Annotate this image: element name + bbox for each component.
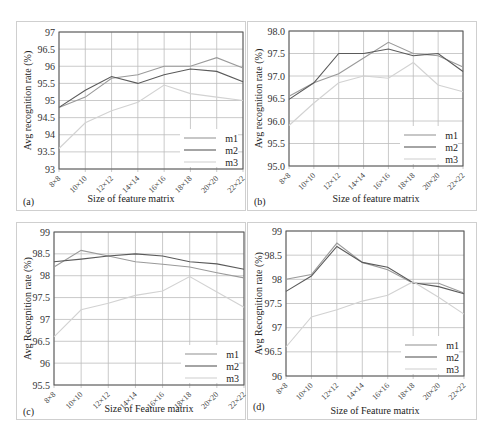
y-tick-label: 98	[40, 270, 50, 281]
y-tick-label: 95	[45, 95, 55, 106]
legend-label-m1: m1	[225, 133, 238, 144]
legend-label-m2: m2	[225, 145, 238, 156]
series-line-m2	[59, 69, 243, 107]
x-tick-label: 12×12	[321, 171, 342, 192]
y-axis-label: Avg Recognition rate (%)	[22, 257, 34, 360]
cropped-caption-strip	[0, 0, 492, 8]
y-tick-label: 99	[40, 227, 50, 238]
x-tick-label: 10×10	[64, 390, 85, 411]
x-tick-label: 20×20	[199, 390, 220, 411]
y-axis-label: Avg Recognition rate (%)	[253, 252, 265, 355]
x-tick-label: 10×10	[296, 171, 317, 192]
y-tick-label: 97	[272, 322, 282, 333]
series-line-m3	[289, 63, 463, 126]
chart-svg: 95.095.596.096.597.097.598.08×810×1012×1…	[248, 22, 478, 212]
series-line-m3	[54, 277, 244, 337]
x-tick-label: 20×20	[421, 381, 442, 402]
y-tick-label: 96.5	[33, 336, 51, 347]
legend-label-m1: m1	[445, 130, 458, 141]
y-tick-label: 99	[272, 226, 282, 237]
y-tick-label: 94	[45, 129, 55, 140]
x-tick-label: 10×10	[68, 174, 89, 195]
y-tick-label: 95.5	[38, 78, 56, 89]
x-tick-label: 8×8	[274, 381, 289, 396]
y-tick-label: 97.5	[268, 48, 286, 59]
y-tick-label: 97	[45, 27, 55, 38]
x-tick-label: 16×16	[371, 171, 392, 192]
y-tick-label: 94.5	[38, 112, 56, 123]
y-tick-label: 96.5	[38, 44, 56, 55]
x-tick-label: 18×18	[173, 174, 194, 195]
x-tick-label: 22×22	[227, 390, 247, 411]
y-tick-label: 96	[40, 358, 50, 369]
series-line-m1	[286, 243, 464, 293]
x-tick-label: 8×8	[42, 390, 57, 405]
y-tick-label: 95.5	[268, 138, 286, 149]
legend-label-m1: m1	[446, 340, 459, 351]
x-axis-label: Size of Feature matrix	[104, 403, 193, 414]
y-tick-label: 97.5	[33, 292, 51, 303]
y-tick-label: 95.5	[33, 380, 51, 391]
x-axis-label: Size of Feature matrix	[330, 405, 419, 416]
y-tick-label: 93	[45, 164, 55, 175]
x-axis-label: Size of feature matrix	[333, 193, 420, 204]
chart-svg: 95.59696.59797.59898.5998×810×1012×1214×…	[17, 223, 247, 421]
x-tick-label: 14×14	[120, 174, 141, 195]
series-line-m2	[286, 247, 464, 294]
y-tick-label: 93.5	[38, 146, 56, 157]
y-tick-label: 98.0	[268, 26, 286, 37]
series-line-m1	[59, 58, 243, 108]
y-tick-label: 97.0	[268, 71, 286, 82]
y-tick-label: 98	[272, 274, 282, 285]
y-tick-label: 98.5	[33, 248, 51, 259]
y-tick-label: 97	[40, 314, 50, 325]
x-tick-label: 22×22	[446, 171, 467, 192]
x-tick-label: 10×10	[294, 381, 315, 402]
series-line-m2	[54, 254, 244, 269]
chart-panel-d: 9696.59797.59898.5998×810×1012×1214×1416…	[247, 222, 477, 420]
y-tick-label: 97.5	[265, 298, 283, 309]
legend-label-m2: m2	[226, 361, 239, 372]
y-tick-label: 98.5	[265, 250, 283, 261]
y-tick-label: 96	[45, 61, 55, 72]
x-tick-label: 12×12	[94, 174, 115, 195]
x-tick-label: 20×20	[199, 174, 220, 195]
chart-panel-b: 95.095.596.096.597.097.598.08×810×1012×1…	[247, 21, 477, 211]
legend-label-m3: m3	[445, 154, 458, 165]
y-tick-label: 96.5	[268, 93, 286, 104]
y-tick-label: 96.5	[265, 346, 283, 357]
panel-label: (a)	[23, 196, 34, 208]
x-tick-label: 22×22	[226, 174, 247, 195]
legend-label-m2: m2	[445, 142, 458, 153]
x-tick-label: 14×14	[345, 381, 366, 402]
series-line-m1	[289, 42, 463, 96]
y-axis-label: Avg recognition rate (%)	[22, 51, 34, 151]
chart-svg: 9393.59494.59595.59696.5978×810×1012×121…	[17, 22, 247, 212]
x-tick-label: 22×22	[447, 381, 468, 402]
legend-label-m3: m3	[226, 373, 239, 384]
series-line-m2	[289, 49, 463, 99]
legend-label-m3: m3	[446, 364, 459, 375]
x-tick-label: 16×16	[370, 381, 391, 402]
x-tick-label: 18×18	[396, 171, 417, 192]
legend-label-m1: m1	[226, 349, 239, 360]
x-axis-label: Size of feature matrix	[88, 193, 175, 204]
x-tick-label: 12×12	[319, 381, 340, 402]
chart-svg: 9696.59797.59898.5998×810×1012×1214×1416…	[248, 223, 478, 421]
legend-label-m2: m2	[446, 352, 459, 363]
chart-panel-c: 95.59696.59797.59898.5998×810×1012×1214×…	[16, 222, 246, 420]
panel-label: (b)	[254, 196, 266, 208]
x-tick-label: 14×14	[346, 171, 367, 192]
y-tick-label: 96.0	[268, 116, 286, 127]
y-tick-label: 95.0	[268, 161, 286, 172]
y-tick-label: 96	[272, 371, 282, 382]
legend-label-m3: m3	[225, 157, 238, 168]
x-tick-label: 16×16	[147, 174, 168, 195]
chart-panel-a: 9393.59494.59595.59696.5978×810×1012×121…	[16, 21, 246, 211]
panel-label: (c)	[23, 406, 34, 418]
panel-label: (d)	[253, 401, 265, 413]
x-tick-label: 18×18	[396, 381, 417, 402]
x-tick-label: 8×8	[277, 171, 292, 186]
y-axis-label: Avg recognition rate (%)	[253, 49, 265, 149]
x-tick-label: 8×8	[47, 174, 62, 189]
